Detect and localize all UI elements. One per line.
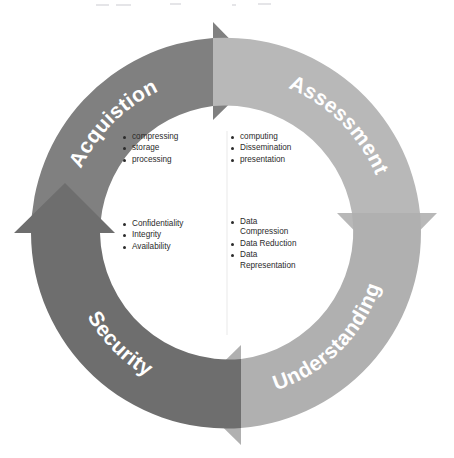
bullet-group-security: Confidentiality Integrity Availability	[123, 219, 223, 253]
list-item: Data Reduction	[231, 239, 331, 249]
center-bullet-lists: compressing storage processing computing…	[123, 132, 331, 332]
list-item: Availability	[123, 242, 223, 252]
list-item: Integrity	[123, 230, 223, 240]
bullet-group-understanding: Data Compression Data Reduction Data Rep…	[231, 217, 331, 272]
bullet-group-acquisition: compressing storage processing	[123, 132, 223, 166]
bullet-group-assessment: computing Dissemination presentation	[231, 132, 331, 166]
list-item: processing	[123, 155, 223, 165]
list-item: presentation	[231, 155, 331, 165]
cycle-diagram: Acquistion Assessment Understanding Secu…	[0, 0, 454, 458]
list-item: Data Compression	[231, 217, 331, 238]
list-item: Data Representation	[231, 250, 331, 271]
list-item: Dissemination	[231, 143, 331, 153]
list-item: storage	[123, 143, 223, 153]
list-item: computing	[231, 132, 331, 142]
list-item: compressing	[123, 132, 223, 142]
list-item: Confidentiality	[123, 219, 223, 229]
